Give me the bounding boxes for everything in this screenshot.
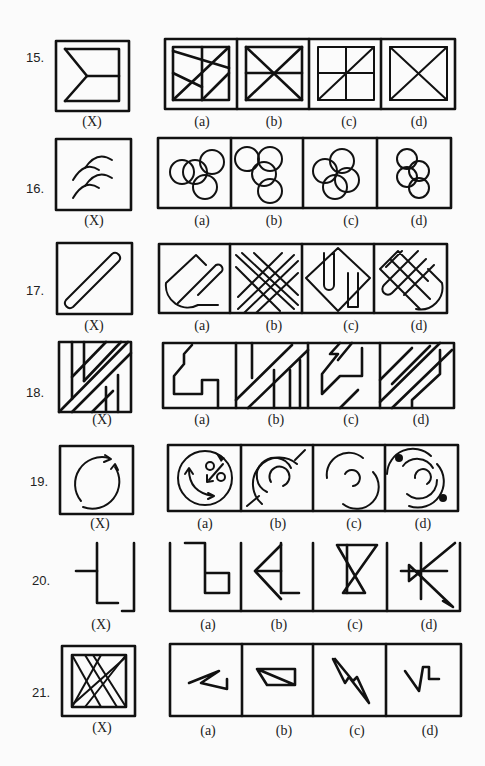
option-label-a: (a): [182, 412, 222, 428]
option-label-a: (a): [182, 213, 222, 229]
option-label-d: (d): [399, 114, 439, 130]
option-label-d: (d): [403, 516, 443, 532]
option-label-b: (b): [254, 318, 294, 334]
option-label-a: (a): [185, 516, 225, 532]
option-label-a: (a): [182, 318, 222, 334]
option-label-d: (d): [399, 213, 439, 229]
question-number: 19.: [30, 474, 48, 489]
option-label-b: (b): [256, 412, 296, 428]
option-label-b: (b): [259, 617, 299, 633]
answer-options-strip: [158, 243, 448, 315]
option-label-c: (c): [331, 412, 371, 428]
question-figure-x: [55, 138, 132, 211]
figure-label-x: (X): [82, 412, 122, 428]
option-label-c: (c): [329, 114, 369, 130]
option-label-c: (c): [337, 723, 377, 739]
answer-options-strip: [169, 541, 461, 613]
option-label-c: (c): [335, 617, 375, 633]
question-number: 18.: [26, 385, 44, 400]
figure-label-x: (X): [74, 318, 114, 334]
option-label-d: (d): [409, 617, 449, 633]
question-number: 17.: [26, 283, 44, 298]
question-figure-x: [56, 242, 133, 315]
question-figure-x: [60, 541, 136, 615]
option-label-a: (a): [188, 617, 228, 633]
figure-label-x: (X): [74, 213, 114, 229]
option-label-c: (c): [334, 516, 374, 532]
figure-label-x: (X): [80, 516, 120, 532]
option-label-c: (c): [331, 318, 371, 334]
figure-label-x: (X): [82, 720, 122, 736]
question-figure-x: [55, 40, 130, 112]
question-figure-x: [61, 645, 136, 717]
figure-label-x: (X): [72, 114, 112, 130]
option-label-b: (b): [254, 114, 294, 130]
option-label-b: (b): [258, 516, 298, 532]
option-label-b: (b): [264, 723, 304, 739]
question-number: 16.: [26, 181, 44, 196]
answer-options-strip: [167, 444, 459, 514]
answer-options-strip: [164, 38, 456, 110]
answer-options-strip: [162, 340, 455, 410]
option-label-a: (a): [188, 723, 228, 739]
option-label-c: (c): [331, 213, 371, 229]
question-figure-x: [58, 341, 132, 413]
question-number: 15.: [26, 50, 44, 65]
answer-options-strip: [157, 137, 452, 209]
answer-options-strip: [169, 643, 462, 717]
option-label-d: (d): [401, 412, 441, 428]
option-label-a: (a): [182, 114, 222, 130]
option-label-d: (d): [410, 723, 450, 739]
figure-label-x: (X): [81, 617, 121, 633]
question-figure-x: [59, 445, 134, 515]
option-label-b: (b): [254, 213, 294, 229]
question-number: 20.: [32, 573, 50, 588]
option-label-d: (d): [399, 318, 439, 334]
question-number: 21.: [32, 685, 50, 700]
